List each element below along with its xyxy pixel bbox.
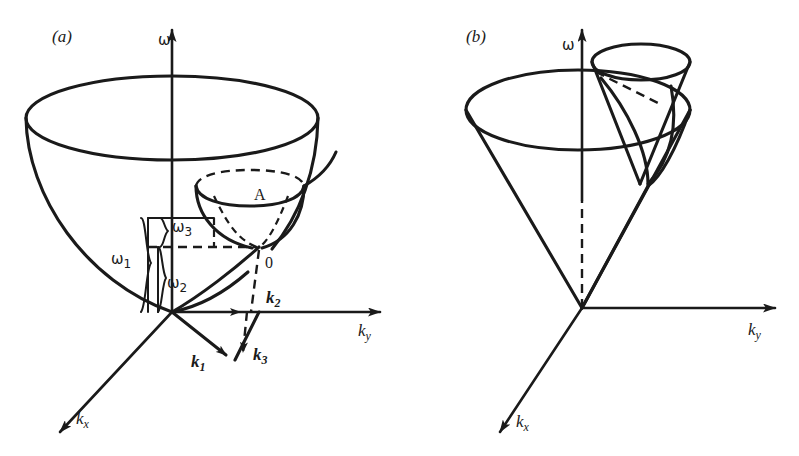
panel-a-ky-axis-label: ky (358, 321, 372, 343)
panel-b-inner-rim-ellipse (592, 44, 690, 80)
figure-root: (a) ω ky kx A 0 ω1 ω2 ω3 k1 k2 k3 (0, 0, 799, 456)
panel-a-point-A-label: A (254, 186, 266, 203)
panel-a-inner-rim-back (196, 170, 304, 186)
panel-a-omega1-label: ω1 (111, 250, 131, 271)
panel-a-outer-right-silhouette (272, 118, 318, 249)
panel-a-point-O-label: 0 (265, 254, 273, 271)
panel-b: (b) ω ky kx (466, 27, 775, 434)
panel-b-omega-axis-label: ω (562, 36, 575, 54)
panel-a-omega3-label: ω3 (172, 218, 192, 239)
panel-b-label: (b) (466, 27, 486, 46)
dispersion-figure: (a) ω ky kx A 0 ω1 ω2 ω3 k1 k2 k3 (0, 0, 799, 456)
panel-a-k1-label: k1 (191, 352, 206, 374)
panel-a-label: (a) (52, 27, 72, 46)
panel-a: (a) ω ky kx A 0 ω1 ω2 ω3 k1 k2 k3 (26, 27, 380, 432)
panel-a-k1-vector (172, 312, 226, 355)
panel-a-brace-omega2 (158, 247, 166, 312)
panel-b-outer-rim-ellipse (466, 70, 690, 150)
panel-b-apex-connector (582, 186, 648, 308)
panel-b-ky-axis-label: ky (748, 320, 762, 342)
panel-b-outer-left-generator (466, 110, 582, 308)
panel-a-outer-left-silhouette (26, 118, 172, 312)
panel-a-omega-axis-label: ω (158, 31, 171, 49)
panel-a-omega2-label: ω2 (167, 274, 187, 295)
panel-b-kx-axis (500, 308, 582, 432)
panel-a-kx-axis-label: kx (76, 409, 90, 431)
panel-b-kx-axis-label: kx (516, 412, 530, 434)
panel-a-k2-label: k2 (266, 288, 281, 310)
panel-a-brace-omega3 (160, 218, 168, 247)
panel-a-drop-O-to-ky (251, 250, 259, 312)
panel-a-generator-origin-to-O (172, 247, 259, 312)
panel-a-k3-label: k3 (253, 345, 268, 367)
